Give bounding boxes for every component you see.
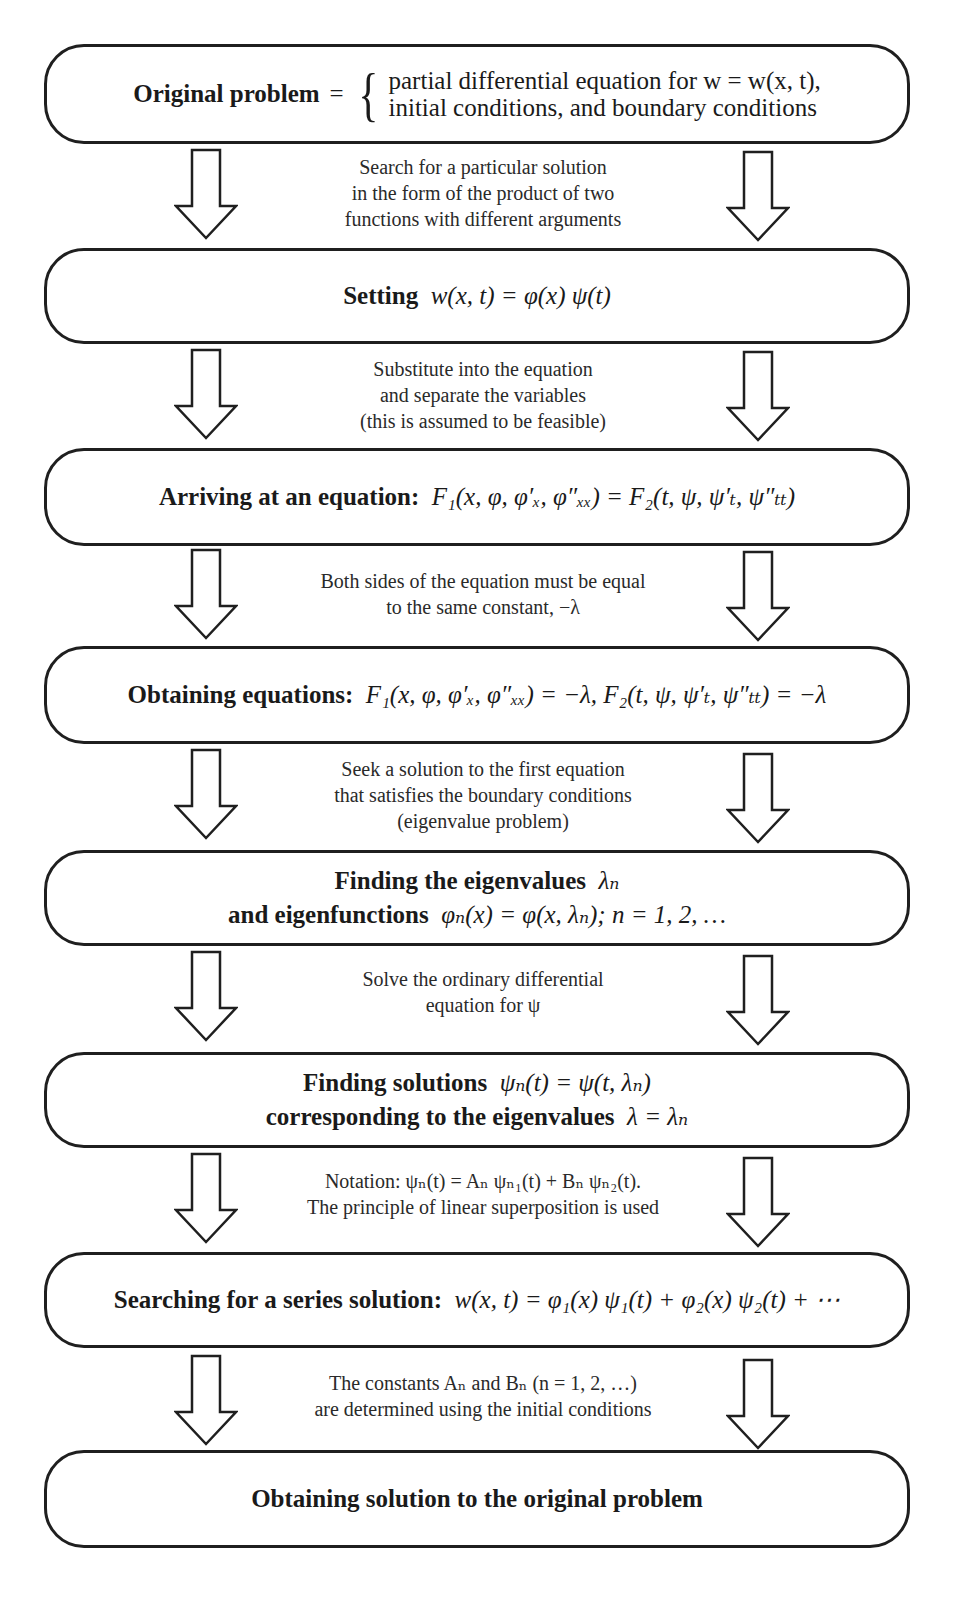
transition-note-5: Solve the ordinary differential equation… (240, 966, 726, 1018)
hollow-down-arrow-icon (726, 1156, 790, 1248)
note-line: Substitute into the equation (240, 356, 726, 382)
transition-note-7: The constants Aₙ and Bₙ (n = 1, 2, …) ar… (240, 1370, 726, 1422)
corresponding-label: corresponding to the eigenvalues (266, 1103, 615, 1130)
hollow-down-arrow-icon (174, 950, 238, 1042)
note-line: (this is assumed to be feasible) (240, 408, 726, 434)
arriving-formula: F₁(x, φ, φ′ₓ, φ″ₓₓ) = F₂(t, ψ, ψ′ₜ, ψ″ₜₜ… (432, 483, 795, 510)
note-line: Solve the ordinary differential (240, 966, 726, 992)
note-line: Notation: ψₙ(t) = Aₙ ψₙ₁(t) + Bₙ ψₙ₂(t). (240, 1168, 726, 1194)
hollow-down-arrow-icon (174, 348, 238, 440)
original-problem-components: partial differential equation for w = w(… (389, 67, 821, 121)
equals-sign: = (330, 77, 344, 111)
transition-note-6: Notation: ψₙ(t) = Aₙ ψₙ₁(t) + Bₙ ψₙ₂(t).… (240, 1168, 726, 1220)
transition-note-3: Both sides of the equation must be equal… (240, 568, 726, 620)
transition-note-2: Substitute into the equation and separat… (240, 356, 726, 434)
corresponding-formula: λ = λₙ (627, 1103, 688, 1130)
hollow-down-arrow-icon (726, 350, 790, 442)
box-final-solution: Obtaining solution to the original probl… (44, 1450, 910, 1548)
series-label: Searching for a series solution: (114, 1286, 442, 1313)
solutions-label: Finding solutions (303, 1069, 487, 1096)
box-obtaining-equations: Obtaining equations: F₁(x, φ, φ′ₓ, φ″ₓₓ)… (44, 646, 910, 744)
box-finding-solutions: Finding solutions ψₙ(t) = ψ(t, λₙ) corre… (44, 1052, 910, 1148)
hollow-down-arrow-icon (726, 752, 790, 844)
note-line: that satisfies the boundary conditions (240, 782, 726, 808)
note-line: (eigenvalue problem) (240, 808, 726, 834)
note-line: Both sides of the equation must be equal (240, 568, 726, 594)
eigenvalues-symbol: λₙ (598, 867, 619, 894)
solutions-formula: ψₙ(t) = ψ(t, λₙ) (500, 1069, 651, 1096)
obtaining-formula: F₁(x, φ, φ′ₓ, φ″ₓₓ) = −λ, F₂(t, ψ, ψ′ₜ, … (366, 681, 827, 708)
eigenfunctions-formula: φₙ(x) = φ(x, λₙ); n = 1, 2, … (441, 901, 726, 928)
note-line: Search for a particular solution (240, 154, 726, 180)
transition-note-4: Seek a solution to the first equation th… (240, 756, 726, 834)
transition-note-1: Search for a particular solution in the … (240, 154, 726, 232)
left-brace: { (358, 64, 378, 124)
hollow-down-arrow-icon (726, 550, 790, 642)
box-original-problem: Original problem = { partial differentia… (44, 44, 910, 144)
note-line: are determined using the initial conditi… (240, 1396, 726, 1422)
hollow-down-arrow-icon (174, 1354, 238, 1446)
hollow-down-arrow-icon (726, 954, 790, 1046)
arriving-label: Arriving at an equation: (159, 483, 419, 510)
obtaining-label: Obtaining equations: (128, 681, 354, 708)
eigenfunctions-label: and eigenfunctions (228, 901, 429, 928)
hollow-down-arrow-icon (174, 548, 238, 640)
box-series-solution: Searching for a series solution: w(x, t)… (44, 1252, 910, 1348)
hollow-down-arrow-icon (174, 748, 238, 840)
box-setting: Setting w(x, t) = φ(x) ψ(t) (44, 248, 910, 344)
setting-formula: w(x, t) = φ(x) ψ(t) (431, 282, 611, 309)
note-line: and separate the variables (240, 382, 726, 408)
component-conditions: initial conditions, and boundary conditi… (389, 94, 821, 121)
box-arriving-equation: Arriving at an equation: F₁(x, φ, φ′ₓ, φ… (44, 448, 910, 546)
setting-label: Setting (343, 282, 418, 309)
eigenvalues-label: Finding the eigenvalues (335, 867, 586, 894)
note-line: Seek a solution to the first equation (240, 756, 726, 782)
box-eigenvalues: Finding the eigenvalues λₙ and eigenfunc… (44, 850, 910, 946)
original-problem-title: Original problem (133, 77, 319, 111)
note-line: functions with different arguments (240, 206, 726, 232)
note-line: equation for ψ (240, 992, 726, 1018)
hollow-down-arrow-icon (174, 1152, 238, 1244)
series-formula: w(x, t) = φ₁(x) ψ₁(t) + φ₂(x) ψ₂(t) + ⋯ (455, 1286, 841, 1313)
hollow-down-arrow-icon (726, 1358, 790, 1450)
note-line: The constants Aₙ and Bₙ (n = 1, 2, …) (240, 1370, 726, 1396)
note-line: The principle of linear superposition is… (240, 1194, 726, 1220)
component-pde: partial differential equation for w = w(… (389, 67, 821, 94)
hollow-down-arrow-icon (174, 148, 238, 240)
note-line: to the same constant, −λ (240, 594, 726, 620)
note-line: in the form of the product of two (240, 180, 726, 206)
final-label: Obtaining solution to the original probl… (251, 1485, 703, 1512)
hollow-down-arrow-icon (726, 150, 790, 242)
